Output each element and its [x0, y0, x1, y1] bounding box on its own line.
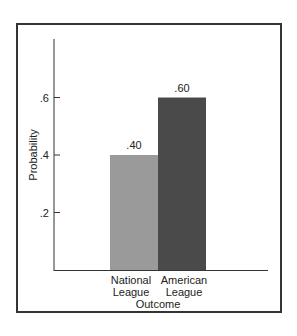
category-label: National	[111, 274, 151, 286]
bar	[158, 98, 206, 271]
category-label: League	[166, 286, 203, 298]
bar-chart: .2.4.6 .40.60 NationalLeagueAmericanLeag…	[0, 0, 297, 336]
x-tick-labels: NationalLeagueAmericanLeague	[111, 274, 207, 298]
y-tick-label: .2	[40, 207, 49, 219]
bar	[110, 155, 158, 270]
x-axis-label: Outcome	[136, 298, 181, 310]
data-label: .40	[126, 139, 141, 151]
y-ticks: .2.4.6	[40, 92, 60, 219]
y-tick-label: .4	[40, 149, 49, 161]
y-axis-label: Probability	[27, 129, 39, 181]
data-label: .60	[174, 82, 189, 94]
y-tick-label: .6	[40, 92, 49, 104]
bars: .40.60	[110, 82, 206, 271]
category-label: American	[161, 274, 207, 286]
category-label: League	[113, 286, 150, 298]
